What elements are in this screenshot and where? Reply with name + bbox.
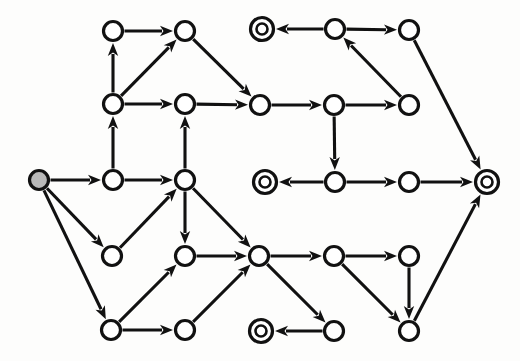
graph-edge[interactable]: [346, 251, 398, 261]
graph-edge[interactable]: [180, 192, 190, 245]
graph-edge[interactable]: [414, 40, 480, 169]
graph-edge[interactable]: [193, 39, 251, 96]
graph-edge[interactable]: [271, 251, 323, 261]
graph-node-accept[interactable]: [250, 320, 273, 343]
node-outer-circle: [400, 96, 419, 115]
graph-edge[interactable]: [197, 99, 249, 109]
graph-node[interactable]: [400, 96, 419, 115]
edge-line: [193, 272, 243, 322]
node-inner-circle: [256, 326, 267, 337]
graph-edge[interactable]: [51, 175, 102, 185]
graph-edge[interactable]: [193, 264, 250, 321]
edge-line: [267, 264, 318, 315]
graph-node[interactable]: [104, 95, 123, 114]
graph-edge[interactable]: [267, 264, 325, 322]
node-outer-circle: [103, 247, 122, 266]
node-outer-circle: [326, 20, 345, 39]
graph-edge[interactable]: [404, 268, 414, 320]
node-outer-circle: [104, 95, 123, 114]
edge-line: [120, 197, 169, 248]
node-outer-circle: [400, 173, 419, 192]
graph-node[interactable]: [104, 22, 123, 41]
edge-line: [44, 190, 101, 309]
node-outer-circle: [104, 22, 123, 41]
graph-node[interactable]: [326, 173, 345, 192]
graph-edge[interactable]: [108, 43, 118, 93]
graph-edge[interactable]: [347, 24, 398, 34]
node-outer-circle: [400, 322, 419, 341]
graph-edge[interactable]: [197, 251, 248, 261]
graph-edge[interactable]: [193, 188, 251, 247]
node-outer-circle: [400, 247, 419, 266]
graph-edge[interactable]: [125, 99, 174, 109]
edge-line: [342, 264, 393, 315]
graph-edge[interactable]: [275, 326, 323, 336]
graph-node[interactable]: [400, 247, 419, 266]
graph-node[interactable]: [400, 21, 419, 40]
graph-node[interactable]: [102, 321, 121, 340]
node-outer-circle: [325, 247, 344, 266]
graph-edge[interactable]: [276, 24, 324, 34]
node-outer-circle: [176, 247, 195, 266]
graph-edge[interactable]: [123, 325, 174, 335]
graph-edge[interactable]: [180, 116, 190, 169]
graph-node[interactable]: [176, 171, 195, 190]
graph-node[interactable]: [176, 95, 195, 114]
node-inner-circle: [482, 177, 493, 188]
graph-edge[interactable]: [343, 38, 401, 97]
graph-edge[interactable]: [329, 117, 339, 171]
graph-edge[interactable]: [279, 177, 324, 187]
graph-edge[interactable]: [346, 100, 398, 110]
graph-node-start[interactable]: [30, 171, 49, 190]
edge-line: [351, 45, 401, 96]
graph-edge[interactable]: [125, 26, 174, 36]
edge-line: [193, 188, 243, 239]
node-inner-circle: [257, 24, 268, 35]
graph-node[interactable]: [103, 247, 122, 266]
graph-edge[interactable]: [125, 175, 174, 185]
edge-line: [414, 40, 475, 160]
graph-edge[interactable]: [119, 264, 176, 321]
graph-edge[interactable]: [347, 177, 398, 187]
graph-node[interactable]: [104, 171, 123, 190]
node-outer-circle: [104, 171, 123, 190]
graph-edge[interactable]: [414, 194, 480, 320]
node-outer-circle: [250, 247, 269, 266]
graph-edge[interactable]: [121, 40, 176, 96]
graph-node[interactable]: [400, 322, 419, 341]
edge-line: [119, 272, 169, 322]
graph-svg: [0, 0, 520, 361]
edge-line: [121, 47, 169, 95]
edge-line: [414, 204, 475, 321]
graph-node[interactable]: [326, 20, 345, 39]
node-outer-circle: [326, 173, 345, 192]
graph-node[interactable]: [250, 247, 269, 266]
diagram-canvas: [0, 0, 520, 361]
graph-edge[interactable]: [272, 100, 323, 110]
graph-node[interactable]: [325, 322, 344, 341]
graph-edge[interactable]: [120, 189, 177, 248]
graph-node-accept[interactable]: [251, 18, 274, 41]
graph-node[interactable]: [176, 22, 195, 41]
graph-node-accept[interactable]: [254, 171, 277, 194]
graph-edge[interactable]: [44, 190, 106, 319]
node-outer-circle: [176, 321, 195, 340]
edge-line: [197, 104, 238, 105]
node-outer-circle: [102, 321, 121, 340]
graph-node[interactable]: [251, 96, 270, 115]
node-outer-circle: [176, 22, 195, 41]
node-outer-circle: [400, 21, 419, 40]
graph-node-accept[interactable]: [476, 171, 499, 194]
edge-line: [334, 117, 335, 160]
node-outer-circle: [251, 96, 270, 115]
graph-edge[interactable]: [342, 264, 400, 322]
graph-node[interactable]: [176, 321, 195, 340]
graph-node[interactable]: [325, 96, 344, 115]
graph-edge[interactable]: [421, 177, 474, 187]
node-outer-circle: [176, 171, 195, 190]
graph-edge[interactable]: [108, 116, 118, 169]
graph-node[interactable]: [176, 247, 195, 266]
graph-node[interactable]: [325, 247, 344, 266]
edge-line: [347, 29, 387, 30]
graph-node[interactable]: [400, 173, 419, 192]
